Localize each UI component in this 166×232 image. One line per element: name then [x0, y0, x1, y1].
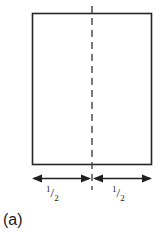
arrowhead-right-inner — [93, 175, 103, 183]
fraction-denominator: 2 — [120, 193, 125, 203]
figure-panel-a: 1/2 1/2 (a) — [0, 0, 166, 232]
arrowhead-right-outer — [142, 175, 152, 183]
dimension-arrow-right — [93, 175, 152, 183]
dimension-label-left: 1/2 — [46, 185, 59, 203]
arrowhead-left-inner — [81, 175, 91, 183]
figure-caption: (a) — [3, 211, 23, 229]
arrowhead-left-outer — [32, 175, 42, 183]
fraction-denominator: 2 — [54, 193, 59, 203]
dimension-label-right: 1/2 — [112, 185, 125, 203]
figure-drawing-canvas — [0, 0, 166, 232]
dimension-arrow-left — [32, 175, 91, 183]
